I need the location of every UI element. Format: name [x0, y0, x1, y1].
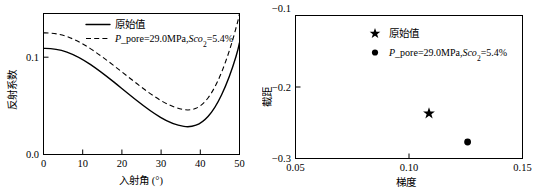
- chart-panel-right: 截距 梯度 0.05 0.10 0.15: [262, 0, 535, 194]
- right-y-ticks: [296, 16, 301, 159]
- left-x-tick-30: 30: [156, 158, 167, 169]
- right-y-tick-01: −0.1: [272, 3, 291, 14]
- figure-container: 反射系数 入射角 (°) 0 10: [0, 0, 535, 194]
- right-x-tick-010: 0.10: [400, 162, 418, 173]
- right-x-axis-label: 梯度: [396, 176, 417, 188]
- left-y-tick-labels: 0.0 0.1: [26, 52, 39, 160]
- right-chart-svg: 截距 梯度 0.05 0.10 0.15: [262, 0, 535, 194]
- left-x-axis-label: 入射角 (°): [119, 174, 163, 187]
- left-legend-ppore-tail: =5.4%: [207, 33, 233, 44]
- right-legend-ppore-p: P: [388, 47, 395, 58]
- right-legend-ppore-rest: _pore=29.0MPa,: [394, 47, 462, 58]
- right-legend-swatch-original-star: [370, 28, 381, 38]
- left-y-tick-0: 0.0: [26, 149, 39, 160]
- right-y-tick-labels: −0.1 −0.2 −0.3: [272, 3, 291, 165]
- left-y-axis-label: 反射系数: [6, 69, 18, 110]
- left-x-tick-20: 20: [117, 158, 128, 169]
- left-legend-ppore-rest: _pore=29.0MPa,: [120, 33, 188, 44]
- left-legend-ppore-sco: Sco: [188, 33, 202, 44]
- right-y-tick-03: −0.3: [272, 153, 291, 164]
- right-y-tick-02: −0.2: [272, 82, 291, 93]
- data-point-original-star: [423, 107, 435, 118]
- right-legend: 原始值 P_pore=29.0MPa,Sco2=5.4%: [370, 27, 507, 63]
- right-legend-label-original: 原始值: [389, 27, 420, 39]
- right-x-tick-labels: 0.05 0.10 0.15: [286, 162, 531, 173]
- left-x-tick-50: 50: [234, 158, 245, 169]
- left-x-ticks: [44, 150, 240, 155]
- right-legend-ppore-sco: Sco: [462, 47, 476, 58]
- left-x-tick-40: 40: [195, 158, 206, 169]
- left-legend-label-original: 原始值: [115, 18, 146, 30]
- right-x-tick-015: 0.15: [513, 162, 531, 173]
- left-x-tick-10: 10: [77, 158, 88, 169]
- data-point-ppore-circle: [464, 139, 471, 146]
- right-data-points: [423, 107, 471, 145]
- right-legend-label-ppore: P_pore=29.0MPa,Sco2=5.4%: [388, 47, 507, 63]
- left-x-tick-labels: 0 10 20 30 40 50: [41, 158, 245, 169]
- left-chart-svg: 反射系数 入射角 (°) 0 10: [0, 0, 262, 194]
- left-y-ticks: [44, 57, 49, 154]
- right-x-ticks: [296, 154, 523, 159]
- left-x-tick-0: 0: [41, 158, 46, 169]
- left-series-original-curve: [44, 43, 240, 127]
- left-y-tick-1: 0.1: [26, 52, 39, 63]
- chart-panel-left: 反射系数 入射角 (°) 0 10: [0, 0, 262, 194]
- left-legend-label-ppore: P_pore=29.0MPa,Sco2=5.4%: [114, 33, 233, 49]
- left-legend-ppore-p: P: [114, 33, 121, 44]
- right-legend-swatch-ppore-circle: [372, 49, 378, 55]
- right-legend-ppore-tail: =5.4%: [481, 47, 507, 58]
- left-legend: 原始值 P_pore=29.0MPa,Sco2=5.4%: [86, 18, 233, 49]
